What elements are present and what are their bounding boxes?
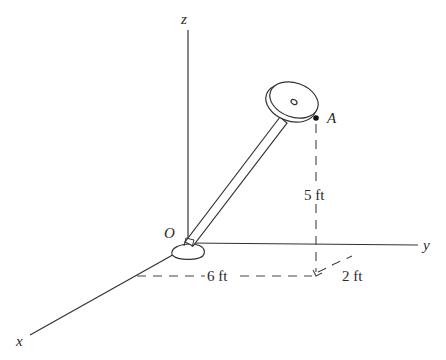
height-dimension-label: 5 ft — [304, 187, 325, 203]
diagram-canvas: z y x O A 5 ft 6 ft 2 ft — [0, 0, 446, 360]
y-axis-label: y — [421, 237, 430, 253]
origin-label: O — [164, 225, 175, 241]
x-distance-label: 2 ft — [342, 268, 363, 284]
z-axis-label: z — [180, 11, 187, 27]
point-a-marker — [313, 115, 319, 121]
y-distance-label: 6 ft — [207, 268, 228, 284]
x-axis-label: x — [15, 333, 23, 349]
point-a-label: A — [326, 110, 337, 126]
x-axis — [30, 252, 178, 335]
y-axis — [188, 243, 418, 245]
base-mount — [172, 244, 205, 259]
disk — [260, 75, 323, 128]
two-ft-dashed-2 — [332, 256, 352, 265]
rod — [185, 117, 287, 246]
axes — [30, 30, 418, 335]
two-ft-dashed — [318, 265, 333, 272]
